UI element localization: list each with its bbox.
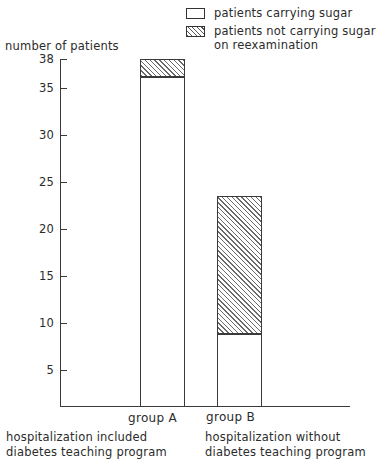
bar-group-a [140,59,185,407]
bar-segment-not-carrying-sugar [140,59,185,77]
bar-group-b [217,59,262,407]
category-label-group-b: group B [206,410,255,424]
y-tick-label-38: 38 [22,54,54,66]
caption-line2: diabetes teaching program [205,445,366,460]
y-axis-line [60,59,61,407]
y-tick-15 [61,276,67,277]
category-caption-group-a: hospitalization included diabetes teachi… [6,430,167,459]
y-tick-30 [61,135,67,136]
bar-segment-not-carrying-sugar [217,196,262,333]
y-tick-label-30: 30 [22,130,54,142]
y-tick-label-35: 35 [22,83,54,95]
y-tick-25 [61,182,67,183]
category-label-group-a: group A [128,411,177,425]
y-tick-label-15: 15 [22,271,54,283]
y-tick-label-25: 25 [22,177,54,189]
plot-area: 38 35 30 25 20 15 10 5 [0,0,391,469]
x-axis-line [60,406,350,407]
category-caption-group-b: hospitalization without diabetes teachin… [205,430,366,459]
caption-line1: hospitalization without [205,430,366,445]
caption-line1: hospitalization included [6,430,167,445]
y-tick-20 [61,229,67,230]
y-tick-label-10: 10 [22,318,54,330]
y-tick-label-20: 20 [22,224,54,236]
y-tick-5 [61,370,67,371]
y-tick-label-5: 5 [22,365,54,377]
bar-segment-carrying-sugar [140,77,185,407]
y-tick-38 [61,59,67,60]
caption-line2: diabetes teaching program [6,445,167,460]
y-tick-10 [61,323,67,324]
bar-chart: patients carrying sugar patients not car… [0,0,391,469]
bar-segment-carrying-sugar [217,334,262,407]
y-tick-35 [61,88,67,89]
